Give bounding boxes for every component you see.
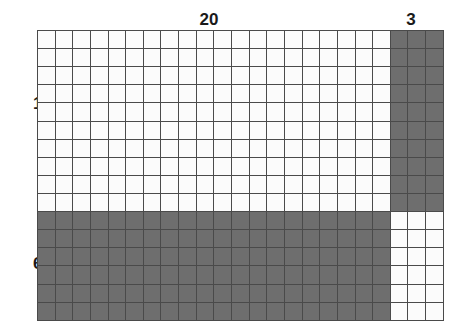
grid-cell-shaded (390, 175, 408, 193)
grid-cell-shaded (179, 284, 197, 302)
grid-cell-unshaded (390, 230, 408, 248)
grid-cell-unshaded (232, 121, 250, 139)
grid-cell-shaded (55, 230, 73, 248)
grid-cell-shaded (90, 302, 108, 320)
grid-cell-shaded (108, 266, 126, 284)
grid-cell-unshaded (55, 103, 73, 121)
grid-cell-unshaded (179, 67, 197, 85)
grid-cell-unshaded (284, 31, 302, 49)
grid-cell-unshaded (161, 193, 179, 211)
grid-cell-shaded (408, 175, 426, 193)
grid-cell-shaded (38, 230, 56, 248)
grid-cell-shaded (426, 157, 444, 175)
grid-cell-unshaded (249, 31, 267, 49)
grid-cell-shaded (196, 230, 214, 248)
grid-cell-shaded (108, 284, 126, 302)
grid-cell-shaded (302, 248, 320, 266)
grid-cell-unshaded (90, 175, 108, 193)
grid-row (38, 139, 444, 157)
grid-row (38, 284, 444, 302)
grid-cell-shaded (426, 49, 444, 67)
grid-cell-shaded (426, 103, 444, 121)
grid-cell-shaded (143, 248, 161, 266)
grid-cell-shaded (108, 248, 126, 266)
grid-cell-unshaded (408, 230, 426, 248)
grid-cell-shaded (90, 284, 108, 302)
grid-cell-unshaded (232, 49, 250, 67)
grid-cell-unshaded (302, 175, 320, 193)
grid-cell-shaded (55, 248, 73, 266)
grid-cell-shaded (214, 212, 232, 230)
grid-cell-unshaded (108, 139, 126, 157)
grid-cell-unshaded (90, 157, 108, 175)
grid-cell-shaded (267, 248, 285, 266)
grid-cell-shaded (390, 121, 408, 139)
grid-cell-unshaded (73, 67, 91, 85)
grid-cell-unshaded (161, 67, 179, 85)
grid-cell-unshaded (320, 121, 338, 139)
grid-cell-unshaded (126, 67, 144, 85)
grid-cell-unshaded (38, 121, 56, 139)
grid-cell-shaded (320, 230, 338, 248)
grid-cell-unshaded (355, 85, 373, 103)
grid-cell-unshaded (284, 103, 302, 121)
grid-cell-shaded (249, 248, 267, 266)
grid-cell-shaded (179, 230, 197, 248)
grid-cell-unshaded (320, 193, 338, 211)
grid-cell-unshaded (143, 121, 161, 139)
grid-cell-shaded (38, 248, 56, 266)
grid-cell-unshaded (302, 193, 320, 211)
grid-cell-unshaded (337, 157, 355, 175)
grid-cell-unshaded (232, 67, 250, 85)
grid-cell-unshaded (108, 85, 126, 103)
grid-cell-unshaded (408, 302, 426, 320)
grid-cell-shaded (38, 302, 56, 320)
grid-cell-unshaded (408, 212, 426, 230)
grid-cell-shaded (408, 49, 426, 67)
grid-cell-shaded (179, 212, 197, 230)
grid-cell-shaded (249, 230, 267, 248)
grid-cell-shaded (320, 302, 338, 320)
grid-cell-unshaded (161, 85, 179, 103)
grid-cell-shaded (214, 284, 232, 302)
grid-cell-shaded (426, 121, 444, 139)
grid-cell-shaded (38, 266, 56, 284)
grid-cell-shaded (426, 175, 444, 193)
grid-cell-shaded (161, 284, 179, 302)
grid-cell-shaded (196, 266, 214, 284)
grid-cell-unshaded (267, 175, 285, 193)
grid-cell-shaded (179, 248, 197, 266)
grid-cell-unshaded (408, 266, 426, 284)
grid-cell-shaded (232, 302, 250, 320)
grid-cell-unshaded (55, 85, 73, 103)
grid-cell-unshaded (55, 67, 73, 85)
grid-cell-unshaded (337, 193, 355, 211)
grid-cell-shaded (408, 193, 426, 211)
grid-row (38, 230, 444, 248)
grid-cell-unshaded (267, 85, 285, 103)
grid-cell-unshaded (320, 175, 338, 193)
grid-cell-unshaded (284, 121, 302, 139)
grid-cell-shaded (196, 284, 214, 302)
grid-cell-unshaded (214, 67, 232, 85)
grid-cell-unshaded (373, 85, 391, 103)
grid-cell-shaded (232, 230, 250, 248)
grid-cell-unshaded (196, 175, 214, 193)
grid-cell-shaded (355, 302, 373, 320)
grid-cell-unshaded (284, 175, 302, 193)
grid-cell-unshaded (179, 103, 197, 121)
grid-cell-shaded (249, 302, 267, 320)
grid-cell-shaded (196, 212, 214, 230)
grid-cell-shaded (337, 212, 355, 230)
grid-cell-shaded (38, 284, 56, 302)
grid-cell-unshaded (55, 49, 73, 67)
grid-cell-unshaded (390, 302, 408, 320)
grid-cell-unshaded (161, 121, 179, 139)
grid-cell-unshaded (161, 103, 179, 121)
grid-cell-unshaded (90, 49, 108, 67)
grid-cell-unshaded (267, 157, 285, 175)
grid-cell-shaded (267, 266, 285, 284)
grid-cell-unshaded (73, 31, 91, 49)
grid-cell-unshaded (249, 85, 267, 103)
grid-cell-unshaded (232, 31, 250, 49)
